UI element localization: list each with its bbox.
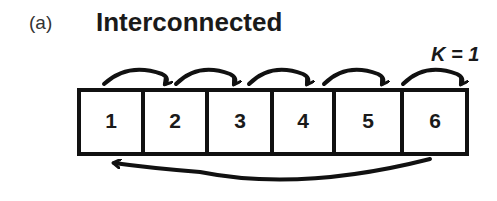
arrow-1-to-2	[104, 70, 167, 84]
cell-1-label: 1	[96, 109, 126, 133]
forward-arrows	[104, 70, 462, 84]
cell-2-label: 2	[160, 109, 190, 133]
cell-4-label: 4	[288, 109, 318, 133]
arrow-wrap-6-to-1	[114, 159, 430, 180]
arrow-3-to-4	[249, 70, 308, 84]
ring-diagram	[0, 0, 497, 201]
cell-6-label: 6	[420, 109, 450, 133]
cell-row	[79, 90, 467, 154]
arrow-2-to-3	[176, 70, 235, 84]
cell-5-label: 5	[353, 109, 383, 133]
arrow-5-to-6	[403, 70, 462, 84]
arrow-4-to-5	[324, 70, 383, 84]
cell-3-label: 3	[225, 109, 255, 133]
